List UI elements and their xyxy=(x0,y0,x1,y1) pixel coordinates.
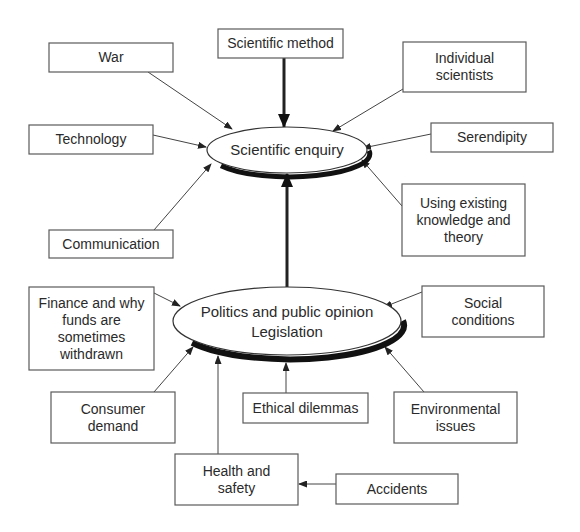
individual-scientists-arrow xyxy=(333,89,403,131)
war-arrow xyxy=(148,72,232,129)
environmental-issues-arrow xyxy=(385,347,424,392)
accidents-label: Accidents xyxy=(367,481,428,497)
war-label: War xyxy=(98,49,123,65)
scientific-enquiry-ellipse-label: Scientific enquiry xyxy=(230,141,344,158)
environmental-issues-label: issues xyxy=(436,418,476,434)
health-safety-label: Health and xyxy=(203,463,271,479)
consumer-demand-label: demand xyxy=(88,418,139,434)
individual-scientists-label: scientists xyxy=(436,67,494,83)
influences-diagram: Scientific enquiryPolitics and public op… xyxy=(0,0,580,532)
environmental-issues-label: Environmental xyxy=(411,401,501,417)
social-conditions-arrow xyxy=(384,292,422,307)
serendipity-arrow xyxy=(363,134,431,148)
war-node: War xyxy=(49,43,173,72)
serendipity-label: Serendipity xyxy=(457,129,527,145)
ethical-dilemmas-node: Ethical dilemmas xyxy=(243,393,368,423)
nodes-layer: WarScientific methodIndividualscientists… xyxy=(29,29,553,505)
politics-legislation-ellipse-label: Politics and public opinion xyxy=(201,303,374,320)
technology-label: Technology xyxy=(56,131,127,147)
social-conditions-label: Social xyxy=(464,295,502,311)
politics-legislation-ellipse-shape xyxy=(173,287,401,355)
finance-arrow xyxy=(154,293,180,306)
communication-arrow xyxy=(154,164,211,230)
scientific-method-node: Scientific method xyxy=(218,29,343,58)
consumer-demand-arrow xyxy=(154,347,193,392)
finance-label: funds are xyxy=(62,312,121,328)
health-safety-label: safety xyxy=(218,480,255,496)
serendipity-node: Serendipity xyxy=(431,123,553,152)
existing-knowledge-arrow xyxy=(362,160,402,206)
consumer-demand-label: Consumer xyxy=(81,401,146,417)
communication-label: Communication xyxy=(62,236,159,252)
finance-label: sometimes xyxy=(58,329,126,345)
existing-knowledge-label: theory xyxy=(444,229,483,245)
existing-knowledge-label: Using existing xyxy=(420,195,507,211)
finance-label: withdrawn xyxy=(59,346,123,362)
communication-node: Communication xyxy=(49,230,173,258)
politics-legislation-ellipse: Politics and public opinionLegislation xyxy=(173,287,404,359)
ellipses-layer: Scientific enquiryPolitics and public op… xyxy=(173,127,404,359)
individual-scientists-label: Individual xyxy=(435,50,494,66)
scientific-method-label: Scientific method xyxy=(227,35,334,51)
finance-node: Finance and whyfunds aresometimeswithdra… xyxy=(29,287,154,370)
environmental-issues-node: Environmentalissues xyxy=(394,392,517,443)
social-conditions-label: conditions xyxy=(451,312,514,328)
technology-arrow xyxy=(153,135,206,147)
finance-label: Finance and why xyxy=(39,295,145,311)
accidents-node: Accidents xyxy=(336,474,458,504)
health-safety-node: Health andsafety xyxy=(175,454,298,505)
consumer-demand-node: Consumerdemand xyxy=(51,392,175,443)
ethical-dilemmas-label: Ethical dilemmas xyxy=(253,400,359,416)
scientific-enquiry-ellipse: Scientific enquiry xyxy=(207,127,370,177)
social-conditions-node: Socialconditions xyxy=(422,286,544,337)
existing-knowledge-node: Using existingknowledge andtheory xyxy=(402,184,525,256)
politics-legislation-ellipse-label: Legislation xyxy=(251,323,323,340)
existing-knowledge-label: knowledge and xyxy=(416,212,510,228)
technology-node: Technology xyxy=(29,125,153,154)
individual-scientists-node: Individualscientists xyxy=(403,42,526,92)
